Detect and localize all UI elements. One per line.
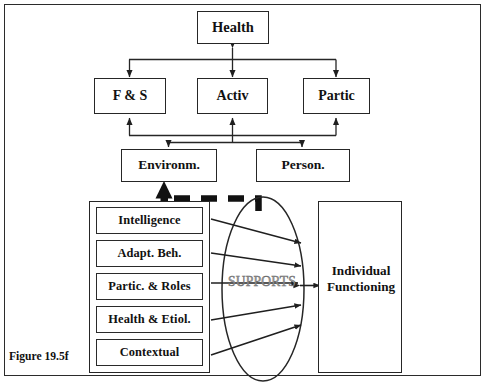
- domain-item-label: Intelligence: [118, 213, 180, 228]
- figure-outer-border: [4, 4, 481, 376]
- node-health-label: Health: [212, 20, 254, 36]
- node-functioning-structure[interactable]: F & S: [94, 78, 166, 114]
- domain-item-label: Health & Etiol.: [108, 312, 190, 327]
- outcome-line-2: Functioning: [322, 279, 400, 295]
- domain-item-label: Partic. & Roles: [108, 279, 190, 294]
- domain-item-participation-roles[interactable]: Partic. & Roles: [96, 273, 203, 300]
- domain-item-label: Contextual: [120, 345, 180, 360]
- domain-item-intelligence[interactable]: Intelligence: [96, 207, 203, 234]
- supports-label: SUPPORTS: [226, 274, 298, 290]
- domain-item-health-etiology[interactable]: Health & Etiol.: [96, 306, 203, 333]
- node-environmental[interactable]: Environm.: [121, 149, 217, 182]
- outcome-line-1: Individual: [322, 263, 400, 279]
- individual-functioning-label: Individual Functioning: [322, 263, 400, 295]
- node-participation[interactable]: Partic: [303, 78, 370, 114]
- node-personal[interactable]: Person.: [256, 149, 350, 182]
- domain-item-contextual[interactable]: Contextual: [96, 339, 203, 366]
- figure-caption: Figure 19.5f: [9, 350, 69, 363]
- node-partic-label: Partic: [318, 88, 355, 103]
- node-person-label: Person.: [281, 158, 324, 173]
- node-environm-label: Environm.: [138, 158, 200, 173]
- domain-item-adaptive-behavior[interactable]: Adapt. Beh.: [96, 240, 203, 267]
- node-fs-label: F & S: [113, 88, 147, 103]
- node-activity[interactable]: Activ: [197, 78, 268, 114]
- node-activ-label: Activ: [217, 88, 249, 103]
- node-health[interactable]: Health: [197, 11, 269, 44]
- domain-item-label: Adapt. Beh.: [117, 246, 181, 261]
- figure-container: Health F & S Activ Partic Environm. Pers…: [0, 0, 489, 383]
